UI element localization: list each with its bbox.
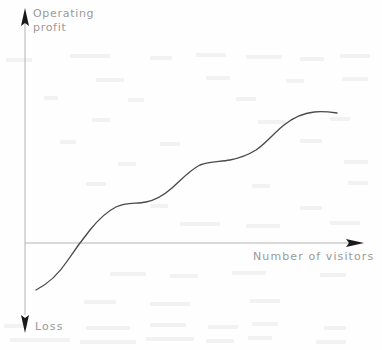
y-axis-label-line2: profit <box>33 21 94 35</box>
x-axis-label: Number of visitors <box>253 250 374 264</box>
y-axis-label-line1: Operating <box>33 7 94 20</box>
chart-plot-area <box>0 0 382 350</box>
loss-axis-label: Loss <box>35 320 64 334</box>
chart-figure: Operating profit Number of visitors Loss <box>0 0 382 350</box>
y-axis-label: Operating profit <box>33 7 94 35</box>
y-axis-down-arrowhead <box>21 315 29 333</box>
